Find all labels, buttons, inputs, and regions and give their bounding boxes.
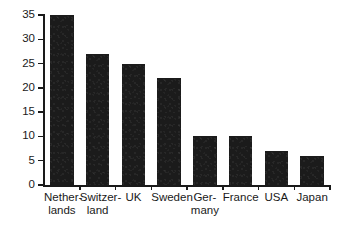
x-boundary-tick-3 xyxy=(151,185,153,190)
x-boundary-tick-5 xyxy=(222,185,224,190)
x-boundary-tick-8 xyxy=(329,185,331,190)
bar-uk xyxy=(122,64,146,185)
x-boundary-tick-2 xyxy=(115,185,117,190)
y-tick-label: 35 xyxy=(22,9,35,21)
y-tick-label: 20 xyxy=(22,82,35,94)
y-tick-label: 25 xyxy=(22,58,35,70)
x-label-germany: Ger- many xyxy=(187,191,223,216)
x-boundary-tick-4 xyxy=(186,185,188,190)
bar-chart: 05101520253035 Nether- landsSwitzer- lan… xyxy=(0,0,338,238)
bar-japan xyxy=(300,156,324,185)
plot-area xyxy=(44,15,330,185)
bar-usa xyxy=(265,151,289,185)
x-label-sweden: Sweden xyxy=(151,191,187,204)
x-label-japan: Japan xyxy=(294,191,330,204)
x-label-france: France xyxy=(223,191,259,204)
x-label-uk: UK xyxy=(116,191,152,204)
bar-france xyxy=(229,136,253,185)
x-boundary-tick-6 xyxy=(258,185,260,190)
y-tick-label: 15 xyxy=(22,106,35,118)
bar-germany xyxy=(193,136,217,185)
x-boundary-tick-1 xyxy=(79,185,81,190)
x-label-netherlands: Nether- lands xyxy=(44,191,80,216)
y-tick-label: 0 xyxy=(29,179,35,191)
bar-switzerland xyxy=(86,54,110,185)
x-boundary-tick-7 xyxy=(294,185,296,190)
x-label-switzerland: Switzer- land xyxy=(80,191,116,216)
y-tick-label: 10 xyxy=(22,131,35,143)
y-tick-label: 30 xyxy=(22,34,35,46)
bar-netherlands xyxy=(50,15,74,185)
y-tick-label: 5 xyxy=(29,155,35,167)
x-label-usa: USA xyxy=(259,191,295,204)
bar-sweden xyxy=(157,78,181,185)
